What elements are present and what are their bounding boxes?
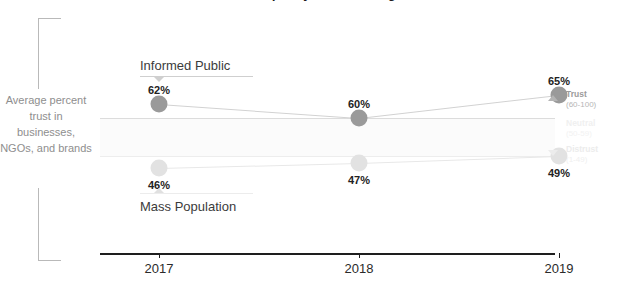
chart-title: Trust inequality at record highs xyxy=(0,0,623,1)
neutral-band xyxy=(100,118,555,156)
data-point-informed-2017[interactable] xyxy=(151,96,168,113)
legend-trust-range: (60-100) xyxy=(566,100,596,110)
legend-trust-name: Trust xyxy=(566,89,596,100)
data-point-informed-2018[interactable] xyxy=(351,110,368,127)
informed-public-caret-icon xyxy=(154,77,164,82)
informed-segment-2017-2018 xyxy=(159,104,359,119)
value-label-mass-2019: 49% xyxy=(548,167,570,179)
distrust-band-line xyxy=(100,156,555,157)
x-axis-line xyxy=(100,253,555,255)
legend-item-distrust: Distrust (1-49) xyxy=(566,144,598,165)
data-point-mass-2017[interactable] xyxy=(151,160,168,177)
plot-area: 62% 60% 65% 46% 47% 49% Informed Public … xyxy=(100,18,555,240)
trust-inequality-chart: Trust inequality at record highs Average… xyxy=(0,0,623,281)
up-triangle-icon xyxy=(548,95,558,101)
trust-band-line xyxy=(100,118,555,119)
x-axis-label-2017: 2017 xyxy=(145,261,174,276)
series-annotation-mass-population-label: Mass Population xyxy=(140,199,236,214)
legend-neutral-name: Neutral xyxy=(566,118,595,129)
informed-segment-2018-2019 xyxy=(359,95,558,119)
down-triangle-icon xyxy=(548,150,558,156)
axis-bracket-top xyxy=(38,18,61,89)
legend-distrust-range: (1-49) xyxy=(566,155,598,165)
mass-population-caret-icon xyxy=(154,188,164,193)
x-axis-tick-2017 xyxy=(159,253,160,258)
x-axis-label-2018: 2018 xyxy=(345,261,374,276)
value-label-informed-2018: 60% xyxy=(348,98,370,110)
value-label-informed-2017: 62% xyxy=(148,84,170,96)
mass-segment-2018-2019 xyxy=(359,156,559,164)
legend-distrust-name: Distrust xyxy=(566,144,598,155)
x-axis-tick-2019 xyxy=(559,253,560,258)
mass-population-rule xyxy=(140,193,253,194)
series-annotation-informed-public: Informed Public xyxy=(140,56,230,74)
x-axis-tick-2018 xyxy=(359,253,360,258)
x-axis-label-2019: 2019 xyxy=(545,261,574,276)
y-axis-caption: Average percent trust in businesses, NGO… xyxy=(0,92,92,156)
value-label-mass-2018: 47% xyxy=(348,174,370,186)
axis-bracket-bottom xyxy=(38,188,61,261)
data-point-mass-2018[interactable] xyxy=(351,155,368,172)
legend-item-trust: Trust (60-100) xyxy=(566,89,596,110)
legend-item-neutral: Neutral (50-59) xyxy=(566,118,595,139)
mass-segment-2017-2018 xyxy=(159,163,359,169)
value-label-informed-2019: 65% xyxy=(548,75,570,87)
series-annotation-informed-public-label: Informed Public xyxy=(140,58,230,73)
legend-neutral-range: (50-59) xyxy=(566,129,595,139)
